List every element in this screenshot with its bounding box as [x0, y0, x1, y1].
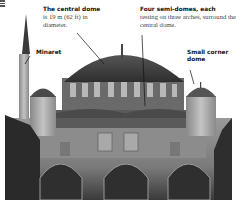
- corner-dome-heading: Small corner dome: [187, 49, 235, 64]
- semi-domes-text: resting on three arches, surround the ce…: [140, 13, 236, 27]
- minaret-spire: [22, 14, 30, 54]
- corner-dome-annotation: Small corner dome: [187, 49, 235, 64]
- semi-domes-annotation: Four semi-domes, each resting on three a…: [140, 6, 240, 28]
- central-dome-heading: The central dome: [43, 6, 113, 13]
- drum-windows: [70, 82, 177, 97]
- corner-dome: [186, 88, 216, 98]
- minaret-heading: Minaret: [36, 49, 61, 56]
- mosque-photo: [0, 0, 241, 207]
- semi-domes-heading: Four semi-domes, each: [140, 6, 240, 13]
- minaret-shaft: [19, 54, 29, 119]
- central-dome-text: is 19 m (62 ft) in diameter.: [43, 13, 88, 27]
- corner-dome-tower: [186, 96, 216, 136]
- dome-finial: [121, 44, 123, 58]
- central-dome-annotation: The central dome is 19 m (62 ft) in diam…: [43, 6, 113, 28]
- central-dome: [64, 55, 184, 82]
- minaret-annotation: Minaret: [36, 49, 61, 56]
